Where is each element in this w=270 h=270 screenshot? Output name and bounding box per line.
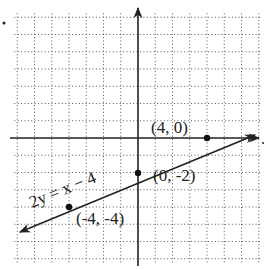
equation-label: 2y = x − 4 (26, 168, 99, 212)
label-point-0-neg2: (0, -2) (153, 166, 195, 185)
graph-svg: (4, 0) (0, -2) (-4, -4) 2y = x − 4 (0, 0, 270, 270)
point-neg4-neg4 (66, 204, 72, 210)
coordinate-plane-figure: (4, 0) (0, -2) (-4, -4) 2y = x − 4 (0, 0, 270, 270)
point-4-0 (204, 135, 210, 141)
label-point-neg4-neg4: (-4, -4) (76, 209, 124, 228)
stray-dot-right (262, 142, 264, 144)
stray-dot-left (3, 22, 6, 25)
label-point-4-0: (4, 0) (151, 118, 188, 137)
point-0-neg2 (135, 170, 141, 176)
